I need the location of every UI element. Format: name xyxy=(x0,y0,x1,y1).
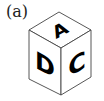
cube-diagram: A D C xyxy=(0,0,104,101)
